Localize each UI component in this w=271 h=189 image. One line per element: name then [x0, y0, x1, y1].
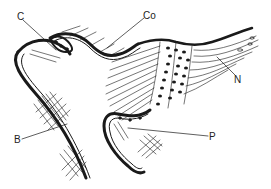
label-n: N — [234, 75, 241, 85]
label-co: Co — [143, 11, 156, 21]
label-b: B — [14, 135, 21, 145]
structure-p — [104, 110, 162, 173]
label-c: C — [17, 12, 24, 22]
leader-b — [22, 124, 67, 139]
leader-p — [128, 128, 208, 136]
structure-co — [30, 26, 140, 62]
label-p: P — [209, 132, 216, 142]
anatomical-diagram — [0, 0, 271, 189]
